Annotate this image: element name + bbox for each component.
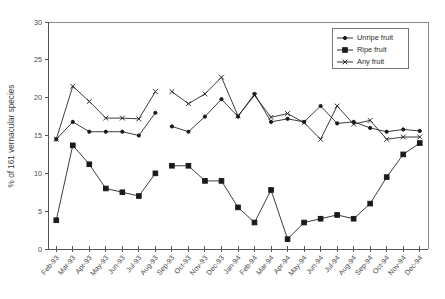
data-point-marker — [203, 115, 206, 118]
series-path — [172, 94, 420, 132]
data-point-marker — [137, 194, 142, 199]
data-point-marker — [170, 163, 175, 168]
y-tick-label: 15 — [34, 131, 42, 140]
data-point-marker — [343, 36, 346, 39]
data-point-marker — [343, 48, 348, 53]
x-tick-label: May-93 — [88, 254, 110, 278]
data-point-marker — [336, 122, 339, 125]
data-point-marker — [71, 120, 74, 123]
series-path — [172, 143, 420, 239]
y-axis-ticks: 051015202530 — [34, 18, 49, 254]
data-point-marker — [153, 171, 158, 176]
data-point-marker — [418, 129, 421, 132]
data-point-marker — [88, 130, 91, 133]
data-point-marker — [402, 128, 405, 131]
y-tick-label: 30 — [34, 18, 42, 27]
x-tick-label: May-94 — [286, 254, 308, 278]
chart-canvas: 051015202530 Feb-93Mar-93Apr-93May-93Jun… — [0, 0, 445, 299]
series-unripe-fruit — [55, 92, 422, 141]
x-tick-label: Sep-93 — [155, 254, 177, 278]
y-tick-label: 0 — [38, 245, 42, 254]
data-point-marker — [285, 237, 290, 242]
data-point-marker — [269, 120, 272, 123]
y-tick-label: 10 — [34, 169, 42, 178]
data-point-marker — [368, 201, 373, 206]
y-axis-title: % of 161 vernacular species — [7, 85, 16, 188]
data-point-marker — [417, 141, 422, 146]
data-point-marker — [302, 220, 307, 225]
legend-label: Ripe fruit — [357, 45, 387, 54]
data-point-marker — [186, 163, 191, 168]
data-point-marker — [70, 143, 75, 148]
data-point-marker — [170, 125, 173, 128]
data-point-marker — [137, 134, 140, 137]
data-point-marker — [121, 130, 124, 133]
x-tick-label: Jun-94 — [304, 254, 325, 277]
x-tick-label: Mar-93 — [56, 254, 78, 277]
chart-legend: Unripe fruitRipe fruitAny fruit — [332, 28, 408, 68]
series-ripe-fruit — [54, 141, 422, 242]
data-point-marker — [220, 98, 223, 101]
series-path — [56, 145, 155, 220]
data-point-marker — [203, 179, 208, 184]
data-point-marker — [236, 205, 241, 210]
y-tick-label: 25 — [34, 55, 42, 64]
x-tick-label: Jun-93 — [106, 254, 127, 277]
data-point-marker — [286, 117, 289, 120]
data-point-marker — [401, 152, 406, 157]
data-point-marker — [252, 220, 257, 225]
data-point-marker — [154, 111, 157, 114]
y-axis: 051015202530 — [34, 18, 49, 254]
data-point-marker — [319, 104, 322, 107]
legend-label: Unripe fruit — [357, 33, 393, 42]
data-series-layer — [54, 75, 422, 242]
data-point-marker — [369, 126, 372, 129]
x-tick-label: Dec-94 — [402, 254, 424, 278]
data-point-marker — [219, 179, 224, 184]
data-point-marker — [87, 162, 92, 167]
data-point-marker — [335, 213, 340, 218]
legend-label: Any fruit — [357, 57, 384, 66]
data-point-marker — [385, 130, 388, 133]
data-point-marker — [269, 188, 274, 193]
y-tick-label: 5 — [38, 207, 42, 216]
x-axis-ticks: Feb-93Mar-93Apr-93May-93Jun-93Jul-93Aug-… — [39, 246, 424, 278]
data-point-marker — [104, 186, 109, 191]
data-point-marker — [187, 130, 190, 133]
data-point-marker — [384, 175, 389, 180]
data-point-marker — [104, 130, 107, 133]
x-axis: Feb-93Mar-93Apr-93May-93Jun-93Jul-93Aug-… — [39, 246, 428, 278]
data-point-marker — [54, 218, 59, 223]
x-tick-label: Sep-94 — [353, 254, 375, 278]
data-point-marker — [318, 216, 323, 221]
data-point-marker — [120, 190, 125, 195]
fruit-availability-chart: 051015202530 Feb-93Mar-93Apr-93May-93Jun… — [0, 0, 445, 299]
data-point-marker — [351, 216, 356, 221]
x-tick-label: Mar-94 — [254, 254, 276, 277]
y-tick-label: 20 — [34, 93, 42, 102]
series-path — [172, 77, 420, 139]
x-tick-label: Dec-93 — [204, 254, 226, 278]
